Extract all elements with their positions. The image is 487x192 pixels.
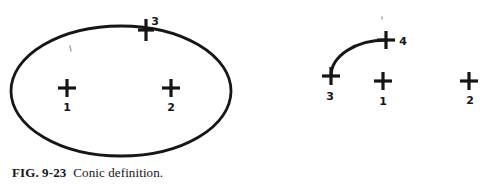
figure-caption: FIG. 9-23Conic definition.: [12, 165, 163, 181]
ellipse-point-label-1: 1: [63, 101, 71, 114]
arc-point-label-3: 3: [326, 90, 334, 103]
arc-point-1: 1: [374, 72, 392, 108]
arc-point-3: 3: [322, 67, 340, 103]
arc-curve: [331, 40, 386, 76]
scan-artifact-1: [70, 46, 71, 51]
ellipse-point-label-2: 2: [167, 101, 175, 114]
arc-point-2: 2: [460, 72, 478, 107]
arc-point-label-2: 2: [466, 94, 474, 107]
ellipse-point-2: 2: [162, 79, 180, 114]
figure-caption-text: Conic definition.: [73, 165, 163, 180]
conic-figure-canvas: 1233412: [0, 0, 487, 192]
ellipse-point-label-3: 3: [151, 15, 159, 28]
arc-point-label-1: 1: [379, 95, 387, 108]
arc-point-4: 4: [377, 31, 407, 49]
ellipse-point-1: 1: [58, 79, 76, 114]
arc-point-label-4: 4: [399, 35, 407, 48]
ellipse-outline: [11, 26, 231, 156]
figure-caption-label: FIG. 9-23: [12, 165, 66, 180]
